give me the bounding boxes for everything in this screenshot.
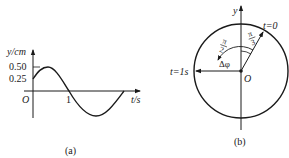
svg-text:2: 2 <box>218 45 225 55</box>
origin-label-a: O <box>22 94 29 105</box>
origin-label-b: O <box>244 73 251 84</box>
label-t0: t=0 <box>263 20 278 31</box>
caption-b: (b) <box>234 136 246 148</box>
panel-a-waveform: y/cm 0.50 0.25 O 1 t/s (a) <box>6 46 141 157</box>
origin-dot <box>239 69 243 73</box>
y-tick-025: 0.25 <box>9 73 27 84</box>
delta-phi-label: Δφ <box>219 59 230 69</box>
y-tick-050: 0.50 <box>9 61 27 72</box>
arc-pi3 <box>241 51 251 54</box>
t-axis-label: t/s <box>131 94 141 105</box>
caption-a: (a) <box>65 145 76 157</box>
t-tick-1: 1 <box>66 94 71 105</box>
angle-pi-over-3: π 3 <box>246 28 259 47</box>
y-axis-label-b: y <box>232 5 238 16</box>
svg-text:3: 3 <box>250 38 257 48</box>
y-axis-label: y/cm <box>6 46 26 57</box>
figure: y/cm 0.50 0.25 O 1 t/s (a) y t=0 t=1s π … <box>0 0 289 158</box>
label-t1s: t=1s <box>170 66 189 77</box>
panel-b-phasor: y t=0 t=1s π 3 π 2 Δφ O (b) <box>170 5 288 148</box>
